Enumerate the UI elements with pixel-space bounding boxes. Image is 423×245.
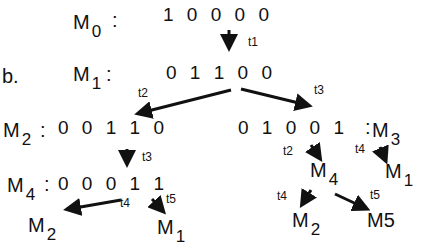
leaf-m2-left: M2 — [28, 215, 56, 235]
figure-label: b. — [2, 66, 19, 86]
leaf-m1-right: M1 — [385, 161, 413, 181]
transition-t2-b: t2 — [283, 145, 293, 157]
marking-m2-sep: : — [40, 120, 46, 140]
arrow-m1-m2 — [140, 90, 231, 113]
transition-t3-a: t3 — [314, 84, 324, 96]
marking-m1-label: M1 — [73, 64, 101, 84]
marking-m2-tokens: 0 0 1 1 0 — [58, 118, 164, 137]
transition-t4-a: t4 — [355, 143, 365, 155]
marking-m1-sep: : — [106, 64, 112, 84]
marking-m0-sep: : — [112, 10, 118, 30]
marking-m4-sep: : — [44, 174, 50, 194]
transition-t5-b: t5 — [370, 189, 380, 201]
leaf-m4-right: M4 — [310, 160, 338, 180]
arrow-m4-m2 — [69, 200, 121, 209]
marking-m3-label: M3 — [372, 120, 400, 140]
transition-t2-a: t2 — [138, 87, 148, 99]
transition-t5-a: t5 — [166, 193, 176, 205]
transition-t4-c: t4 — [277, 190, 287, 202]
marking-m4-tokens: 0 0 0 1 1 — [58, 174, 164, 193]
marking-m0-tokens: 1 0 0 0 0 — [163, 5, 269, 24]
transition-t1: t1 — [248, 36, 258, 48]
arrow-m4b-m2 — [303, 190, 311, 203]
leaf-m1-left: M1 — [157, 217, 185, 237]
arrow-m1-m3 — [241, 89, 307, 105]
arrow-m4-m1 — [152, 199, 162, 210]
arrow-m3-m1 — [380, 147, 385, 159]
leaf-m2-right: M2 — [292, 210, 320, 230]
arrow-m4b-m5 — [335, 194, 365, 208]
marking-m1-tokens: 0 1 1 0 0 — [166, 63, 272, 82]
transition-t4-b: t4 — [120, 197, 130, 209]
marking-m2-label: M2 — [3, 120, 31, 140]
marking-m0-label: M0 — [73, 12, 101, 32]
transition-t3-b: t3 — [142, 151, 152, 163]
leaf-m5-right: M5 — [367, 210, 395, 230]
marking-m3-tokens: 0 1 0 0 1 — [238, 118, 344, 137]
marking-m4-label: M4 — [7, 175, 35, 195]
arrow-m3-m4 — [311, 145, 319, 157]
marking-m3-sep: : — [365, 117, 371, 137]
